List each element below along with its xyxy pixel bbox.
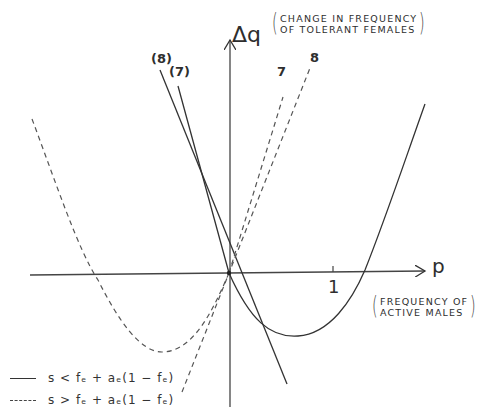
y-axis-symbol: Δq: [232, 22, 261, 47]
diagram-canvas: [0, 0, 481, 412]
dashed-tangent-7: [229, 97, 283, 273]
solid-line-swatch: [10, 378, 36, 379]
solid-tangent-8: [160, 70, 287, 384]
line-tag-dashed-7: 7: [277, 64, 286, 79]
x-axis-description-line1: FREQUENCY OF: [380, 296, 468, 307]
dashed-line-swatch: [10, 400, 36, 401]
x-axis-description-line2: ACTIVE MALES: [380, 307, 468, 318]
y-axis-description-line1: CHANGE IN FREQUENCY: [280, 13, 417, 24]
line-tag-solid-7: (7): [169, 64, 190, 79]
x-tick-label: 1: [328, 276, 339, 297]
line-tag-dashed-8: 8: [310, 50, 319, 65]
origin-point: [227, 271, 231, 275]
y-axis-description: CHANGE IN FREQUENCY OF TOLERANT FEMALES: [273, 13, 424, 35]
solid-tangent-7: [178, 86, 229, 273]
dashed-tangent-8: [182, 68, 310, 392]
legend-item-dashed: s > fₑ + aₑ(1 − fₑ): [10, 393, 174, 407]
dashed-parabola: [32, 119, 229, 352]
legend-label-solid: s < fₑ + aₑ(1 − fₑ): [48, 371, 174, 385]
y-axis-description-line2: OF TOLERANT FEMALES: [280, 24, 417, 35]
legend-label-dashed: s > fₑ + aₑ(1 − fₑ): [48, 393, 174, 407]
legend-item-solid: s < fₑ + aₑ(1 − fₑ): [10, 371, 174, 385]
x-axis-symbol: p: [432, 254, 445, 278]
x-axis-description: FREQUENCY OF ACTIVE MALES: [373, 296, 475, 318]
